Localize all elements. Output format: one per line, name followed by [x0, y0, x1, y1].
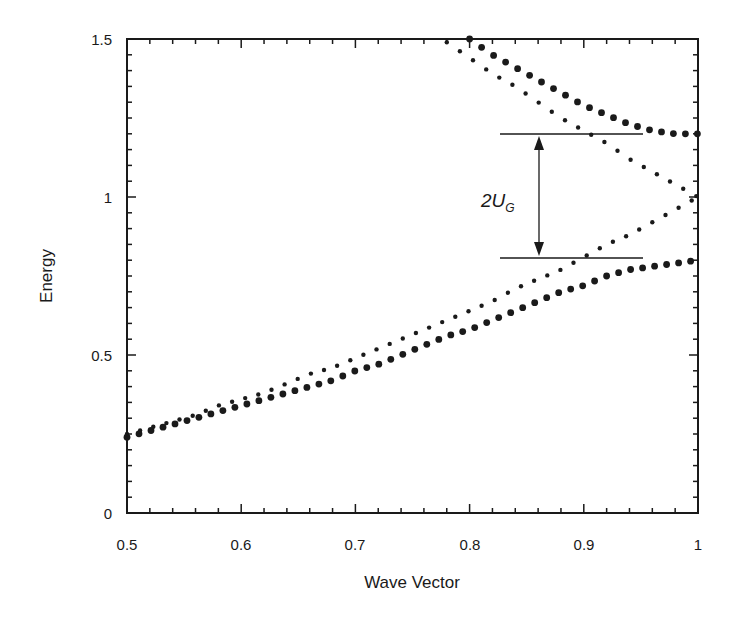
- series-group: [466, 36, 701, 138]
- data-point: [537, 100, 541, 104]
- data-point: [663, 213, 667, 217]
- data-point: [602, 140, 606, 144]
- data-point: [387, 356, 394, 363]
- data-point: [269, 388, 273, 392]
- data-point: [322, 368, 326, 372]
- data-point: [682, 130, 689, 137]
- data-point: [220, 407, 227, 414]
- data-point: [445, 40, 449, 44]
- data-point: [243, 396, 247, 400]
- data-point: [447, 332, 454, 339]
- x-tick-label: 0.9: [574, 536, 595, 553]
- data-point: [296, 377, 300, 381]
- data-point: [483, 319, 490, 326]
- data-point: [514, 65, 521, 72]
- data-point: [563, 118, 567, 122]
- data-point: [694, 194, 698, 198]
- gap-label-main: 2U: [480, 190, 506, 211]
- data-point: [690, 198, 694, 202]
- data-point: [611, 240, 615, 244]
- data-point: [459, 328, 466, 335]
- data-point: [458, 49, 462, 53]
- data-point: [668, 179, 672, 183]
- data-point: [256, 392, 260, 396]
- data-point: [543, 294, 550, 301]
- data-point: [184, 417, 191, 424]
- data-point: [519, 284, 523, 288]
- data-point: [598, 246, 602, 250]
- data-point: [191, 414, 195, 418]
- data-point: [639, 265, 646, 272]
- data-point: [562, 92, 569, 99]
- data-point: [579, 282, 586, 289]
- x-tick-label: 1: [694, 536, 702, 553]
- data-point: [676, 206, 680, 210]
- data-point: [217, 403, 221, 407]
- data-point: [160, 424, 167, 431]
- data-point: [435, 336, 442, 343]
- band-structure-chart: 0.5 0.6 0.7 0.8 0.9 1 0 0.5 1 1.5 Wave V…: [0, 0, 739, 617]
- data-point: [646, 126, 653, 133]
- x-tick-label: 0.5: [117, 536, 138, 553]
- data-point: [348, 358, 352, 362]
- data-point: [628, 158, 632, 162]
- data-point: [230, 400, 234, 404]
- arrow-down-icon: [534, 242, 544, 256]
- data-point: [502, 59, 509, 66]
- data-point: [650, 220, 654, 224]
- x-axis-title: Wave Vector: [364, 573, 460, 592]
- data-point: [282, 382, 286, 386]
- data-point: [280, 391, 287, 398]
- data-point: [411, 346, 418, 353]
- data-point: [196, 414, 203, 421]
- data-point: [574, 99, 581, 106]
- data-point: [471, 58, 475, 62]
- data-point: [637, 227, 641, 231]
- x-tick-label: 0.6: [231, 536, 252, 553]
- x-tick-label: 0.7: [345, 536, 366, 553]
- y-tick-label: 0: [104, 505, 112, 522]
- series-group: [125, 198, 694, 436]
- data-point: [172, 421, 179, 428]
- arrow-up-icon: [534, 136, 544, 150]
- data-point: [687, 258, 694, 265]
- data-point: [675, 260, 682, 267]
- data-point: [427, 325, 431, 329]
- data-point: [523, 91, 527, 95]
- data-point: [567, 286, 574, 293]
- data-point: [598, 109, 605, 116]
- data-point: [148, 427, 155, 434]
- data-point: [232, 404, 239, 411]
- data-point: [497, 75, 501, 79]
- data-point: [624, 234, 628, 238]
- data-point: [256, 397, 263, 404]
- data-point: [571, 261, 575, 265]
- y-axis-title: Energy: [37, 249, 56, 303]
- data-point: [304, 384, 311, 391]
- data-point: [545, 273, 549, 277]
- data-point: [615, 149, 619, 153]
- data-point: [339, 373, 346, 380]
- data-point: [622, 119, 629, 126]
- plot-frame: [127, 39, 698, 513]
- data-point: [694, 130, 701, 137]
- data-point: [335, 364, 339, 368]
- data-point: [519, 304, 526, 311]
- data-point: [493, 298, 497, 302]
- data-point: [651, 263, 658, 270]
- data-point: [466, 36, 473, 43]
- data-point: [507, 309, 514, 316]
- data-point: [550, 85, 557, 92]
- data-point: [510, 83, 514, 87]
- data-point: [375, 361, 382, 368]
- data-point: [292, 387, 299, 394]
- data-point: [681, 187, 685, 191]
- data-point: [627, 266, 634, 273]
- data-point: [526, 72, 533, 79]
- data-point: [642, 165, 646, 169]
- data-point: [453, 315, 457, 319]
- data-point: [471, 324, 478, 331]
- data-point: [124, 434, 131, 441]
- data-point: [538, 79, 545, 86]
- data-point: [591, 278, 598, 285]
